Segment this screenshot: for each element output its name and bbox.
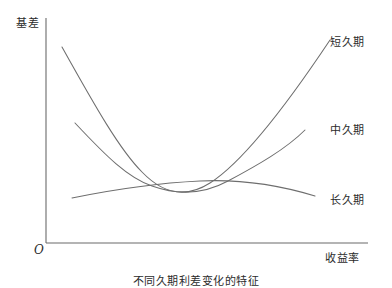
figure-caption: 不同久期利差变化的特征 (0, 272, 392, 288)
series-label-long-duration: 长久期 (330, 191, 365, 207)
series-label-medium-duration: 中久期 (330, 121, 365, 137)
series-label-short-duration: 短久期 (330, 33, 365, 49)
origin-label: O (34, 243, 44, 257)
x-axis-label: 收益率 (325, 249, 360, 265)
series-curve-long-duration (72, 181, 315, 198)
series-curve-short-duration (62, 40, 330, 192)
y-axis-label: 基差 (16, 14, 39, 30)
